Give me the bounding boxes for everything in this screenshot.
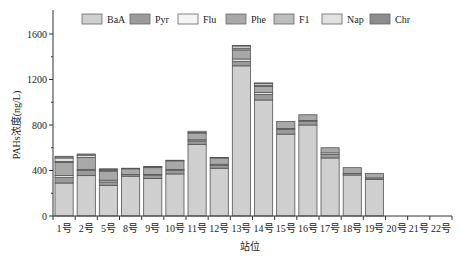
x-tick-label: 1号: [57, 223, 72, 234]
x-tick-label: 10号: [165, 223, 185, 234]
bar-stack: [210, 157, 228, 216]
x-tick-label: 8号: [123, 223, 138, 234]
bar-stack: [277, 122, 295, 216]
bar-segment-pyr: [99, 182, 117, 185]
legend-swatch: [178, 14, 198, 24]
x-tick-label: 19号: [364, 223, 384, 234]
bar-segment-nap: [55, 158, 73, 161]
bar-segment-chr: [254, 83, 272, 84]
bar-stack: [77, 154, 95, 216]
bar-segment-pyr: [77, 171, 95, 176]
y-axis: 040080012001600: [27, 10, 53, 222]
legend-item-nap: Nap: [322, 14, 364, 25]
legend-label: F1: [299, 14, 310, 25]
x-tick-label: 21号: [409, 223, 429, 234]
legend-swatch: [370, 14, 390, 24]
bar-segment-phe: [144, 168, 162, 175]
legend-item-baa: BaA: [82, 14, 126, 25]
legend-swatch: [82, 14, 102, 24]
bar-segment-phe: [210, 158, 228, 164]
bar-segment-baa: [299, 125, 317, 216]
bar-segment-phe: [232, 50, 250, 59]
y-tick-label: 400: [32, 165, 47, 176]
bar-segment-baa: [166, 174, 184, 216]
bar-segment-nap: [121, 168, 139, 169]
bar-segment-pyr: [144, 175, 162, 178]
bar-segment-baa: [210, 168, 228, 216]
bar-segment-pyr: [232, 61, 250, 66]
bar-segment-phe: [321, 148, 339, 153]
legend-label: Pyr: [155, 14, 170, 25]
bar-stack: [99, 169, 117, 216]
bar-segment-phe: [99, 171, 117, 180]
bar-segment-pyr: [277, 130, 295, 135]
y-axis-title: PAHs浓度(ng/L): [10, 91, 23, 160]
x-axis-title: 站位: [240, 240, 260, 252]
bar-segment-pyr: [210, 165, 228, 168]
x-tick-label: 18号: [342, 223, 362, 234]
bar-segment-phe: [254, 86, 272, 92]
bar-segment-baa: [365, 180, 383, 216]
legend-swatch: [226, 14, 246, 24]
legend-swatch: [130, 14, 150, 24]
bar-segment-phe: [55, 163, 73, 176]
bar-segment-nap: [166, 160, 184, 161]
bar-segment-baa: [188, 144, 206, 216]
x-tick-label: 12号: [209, 223, 229, 234]
legend-item-flu: Flu: [178, 14, 216, 25]
bar-segment-pyr: [321, 155, 339, 158]
bar-segment-chr: [77, 154, 95, 155]
bar-segment-phe: [121, 169, 139, 175]
bar-segment-baa: [144, 178, 162, 216]
bar-segment-baa: [254, 100, 272, 216]
x-tick-label: 15号: [276, 223, 296, 234]
x-tick-label: 5号: [101, 223, 116, 234]
bar-stack: [365, 173, 383, 216]
x-tick-label: 9号: [145, 223, 160, 234]
legend-item-phe: Phe: [226, 14, 267, 25]
x-tick-label: 11号: [187, 223, 207, 234]
bar-segment-phe: [166, 161, 184, 170]
x-tick-label: 16号: [298, 223, 318, 234]
bar-segment-chr: [232, 45, 250, 46]
bar-segment-baa: [277, 134, 295, 216]
bar-stack: [254, 83, 272, 216]
bar-stack: [299, 115, 317, 216]
legend-label: Phe: [251, 14, 267, 25]
bar-segment-pyr: [299, 122, 317, 125]
bar-segment-phe: [365, 173, 383, 178]
x-tick-label: 14号: [254, 223, 274, 234]
bar-segment-baa: [99, 185, 117, 216]
bar-segment-baa: [121, 176, 139, 216]
x-tick-label: 2号: [79, 223, 94, 234]
legend-label: Chr: [395, 14, 411, 25]
bar-segment-baa: [77, 176, 95, 216]
legend-item-pyr: Pyr: [130, 14, 170, 25]
bar-segment-pyr: [55, 177, 73, 183]
bars: [55, 45, 384, 216]
bar-segment-baa: [55, 183, 73, 216]
stacked-bar-chart: 040080012001600 1号2号5号8号9号10号11号12号13号14…: [0, 0, 460, 260]
bar-stack: [321, 148, 339, 216]
bar-stack: [144, 167, 162, 216]
y-tick-label: 0: [42, 211, 47, 222]
bar-segment-baa: [321, 158, 339, 216]
bar-segment-chr: [55, 156, 73, 158]
bar-stack: [188, 131, 206, 216]
bar-stack: [343, 168, 361, 216]
legend: BaAPyrFluPheF1NapChr: [82, 14, 411, 25]
bar-stack: [232, 45, 250, 216]
bar-segment-phe: [299, 115, 317, 121]
bar-segment-chr: [99, 169, 117, 170]
x-tick-label: 20号: [387, 223, 407, 234]
legend-item-chr: Chr: [370, 14, 411, 25]
bar-segment-nap: [188, 131, 206, 132]
legend-item-f1: F1: [274, 14, 310, 25]
bar-segment-phe: [188, 133, 206, 140]
legend-swatch: [274, 14, 294, 24]
bar-stack: [166, 160, 184, 216]
y-tick-label: 800: [32, 120, 47, 131]
bar-segment-baa: [232, 66, 250, 216]
bar-segment-f1: [210, 157, 228, 158]
bar-stack: [121, 168, 139, 216]
